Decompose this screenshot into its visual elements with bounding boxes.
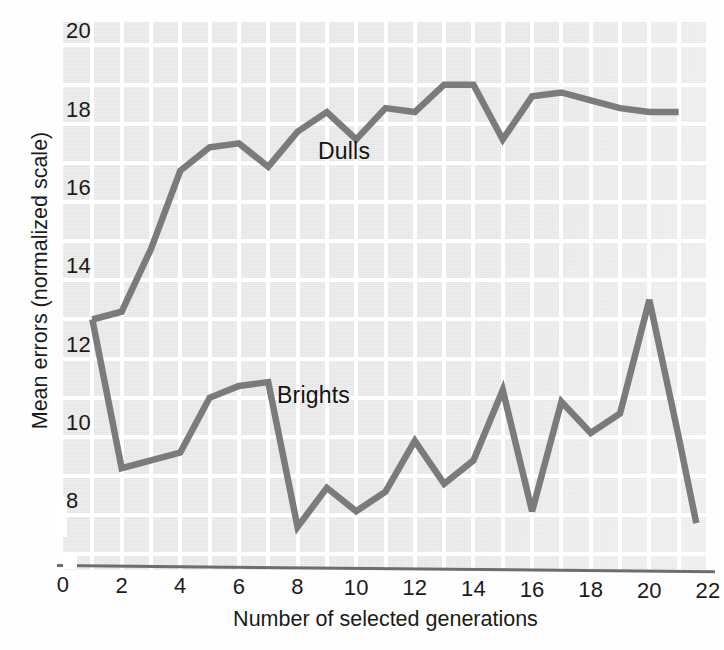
- y-tick-label: 14: [66, 253, 100, 279]
- gridline-vertical-minor: [442, 22, 446, 570]
- gridline-vertical-minor: [559, 22, 563, 570]
- plot-area: [63, 22, 708, 570]
- gridline-vertical-minor: [384, 22, 388, 570]
- x-tick-label: 2: [102, 573, 142, 599]
- y-tick-label: 20: [66, 18, 100, 44]
- y-tick-label: 12: [66, 332, 100, 358]
- gridline-vertical-minor: [325, 22, 329, 570]
- x-axis-title: Number of selected generations: [63, 607, 708, 632]
- x-tick-label: 10: [336, 575, 376, 601]
- x-tick-label: 14: [453, 576, 493, 602]
- gridline-vertical: [296, 22, 300, 570]
- x-tick-label: 8: [278, 574, 318, 600]
- gridline-vertical: [647, 22, 651, 570]
- gridline-vertical-minor: [208, 22, 212, 570]
- x-tick-label: 6: [219, 574, 259, 600]
- y-tick-label: 10: [66, 410, 100, 436]
- gridline-vertical: [237, 22, 241, 570]
- gridline-vertical: [530, 22, 534, 570]
- y-axis-title: Mean errors (normalized scale): [28, 71, 53, 491]
- x-tick-label: 20: [629, 578, 669, 604]
- x-tick-label: 16: [512, 577, 552, 603]
- x-tick-label: 12: [395, 575, 435, 601]
- gridline-vertical: [413, 22, 417, 570]
- x-tick-label: 4: [160, 573, 200, 599]
- gridline-vertical: [471, 22, 475, 570]
- gridline-vertical: [354, 22, 358, 570]
- gridline-vertical-minor: [266, 22, 270, 570]
- series-annotation-dulls: Dulls: [318, 138, 370, 165]
- y-tick-label: 18: [66, 97, 100, 123]
- gridline-vertical-minor: [618, 22, 622, 570]
- x-tick-label: 22: [688, 578, 724, 604]
- gridline-vertical-minor: [501, 22, 505, 570]
- y-tick-label: 16: [66, 175, 100, 201]
- x-tick-label: 18: [571, 577, 611, 603]
- gridline-vertical: [706, 22, 708, 570]
- gridline-vertical-minor: [677, 22, 681, 570]
- gridline-vertical-minor: [149, 22, 153, 570]
- gridline-vertical: [120, 22, 124, 570]
- x-tick-label: 0: [43, 572, 83, 598]
- series-annotation-brights: Brights: [277, 382, 350, 409]
- gridline-vertical: [589, 22, 593, 570]
- gridline-vertical: [178, 22, 182, 570]
- y-tick-label: 8: [66, 488, 100, 514]
